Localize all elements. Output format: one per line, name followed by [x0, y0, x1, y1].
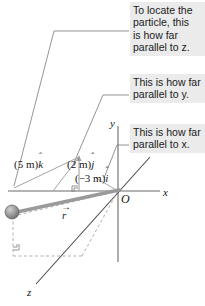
- hat-accent-i: ˆ: [105, 166, 108, 175]
- axis-label-z: z: [27, 286, 31, 298]
- label-position-vector-r: →r: [62, 209, 66, 221]
- label-component-j-magnitude: (2 m): [67, 158, 91, 170]
- vector-arrow-accent: →: [61, 202, 67, 212]
- label-component-i: (−3 m)ˆi: [75, 172, 108, 184]
- particle-sphere: [5, 205, 19, 219]
- callout-parallel-to-y: This is how far parallel to y.: [130, 74, 205, 103]
- axis-label-y: y: [110, 117, 115, 129]
- callout-parallel-to-x: This is how far parallel to x.: [130, 124, 205, 153]
- callout-parallel-to-z: To locate the particle, this is how far …: [130, 2, 205, 56]
- label-component-k-magnitude: (5 m): [14, 158, 38, 170]
- leader-line-y: [73, 95, 129, 165]
- label-component-i-magnitude: (−3 m): [75, 172, 105, 184]
- hat-accent-k: ˆ: [38, 152, 43, 161]
- axis-label-x: x: [163, 186, 168, 198]
- origin-label: O: [121, 192, 130, 207]
- label-component-j: (2 m)ˆj: [67, 158, 94, 170]
- right-angle-mark-lower: [13, 244, 19, 250]
- hat-accent-j: ˆ: [91, 152, 94, 161]
- label-component-k: (5 m)ˆk: [14, 158, 43, 170]
- dashed-projection-to-z: [82, 191, 118, 256]
